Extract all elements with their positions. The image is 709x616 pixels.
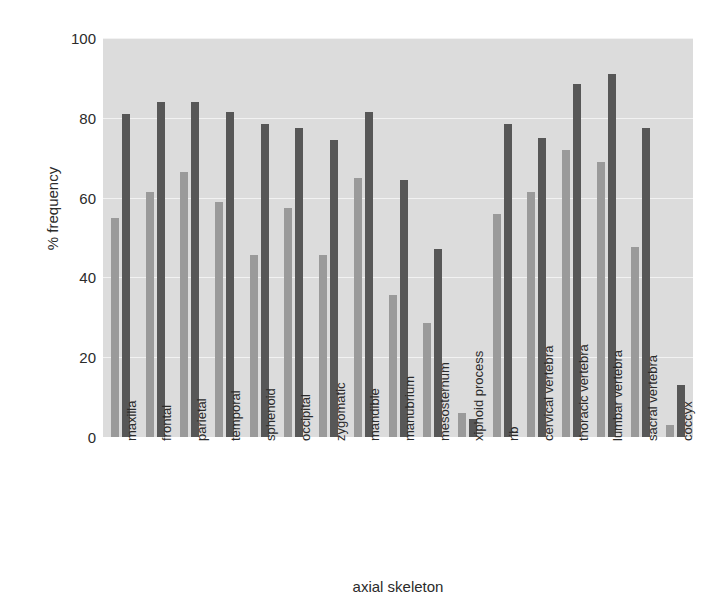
bar [191, 102, 199, 437]
bar [493, 214, 501, 437]
bar-group [111, 38, 130, 437]
bar-group [493, 38, 512, 437]
x-axis-tick-label: zygomatic [334, 382, 347, 441]
x-axis-tick-label: frontal [160, 405, 173, 441]
y-axis-tick-label: 80 [48, 111, 96, 126]
x-axis-tick-label: sphenoid [264, 388, 277, 441]
bar [157, 102, 165, 437]
x-axis-tick-label: parietal [195, 398, 208, 441]
x-axis-tick-label: mandible [368, 388, 381, 441]
bar-group [146, 38, 165, 437]
bar [631, 247, 639, 437]
x-axis-tick-label: maxilla [125, 401, 138, 441]
bar [527, 192, 535, 437]
x-axis-title: axial skeleton [103, 578, 693, 595]
x-axis-tick-labels: maxillafrontalparietaltemporalsphenoidoc… [103, 441, 693, 566]
bar-group [666, 38, 685, 437]
bar [319, 255, 327, 437]
x-axis-tick-label: cervical vertebra [542, 346, 555, 441]
bar [226, 112, 234, 437]
bar [180, 172, 188, 437]
bar [597, 162, 605, 437]
bar-chart-figure: % frequency 020406080100 maxillafrontalp… [0, 0, 709, 616]
plot-area [103, 38, 693, 437]
x-axis-tick-label: sacral vertebra [646, 355, 659, 441]
bar [295, 128, 303, 437]
bar-group [284, 38, 303, 437]
x-axis-tick-label: mesosternum [438, 362, 451, 441]
bar [250, 255, 258, 437]
bar [458, 413, 466, 437]
bar [423, 323, 431, 437]
bar [122, 114, 130, 437]
y-axis-tick-label: 20 [48, 350, 96, 365]
x-axis-tick-label: lumbar vertebra [611, 350, 624, 441]
y-axis-tick-label: 0 [48, 430, 96, 445]
y-axis-tick-label: 60 [48, 191, 96, 206]
bar [111, 218, 119, 437]
x-axis-tick-label: occipital [299, 394, 312, 441]
y-axis-tick-label: 40 [48, 270, 96, 285]
x-axis-tick-label: xiphoid process [472, 351, 485, 441]
x-axis-tick-label: coccyx [681, 401, 694, 441]
bar [215, 202, 223, 437]
bar-group [319, 38, 338, 437]
bar [354, 178, 362, 437]
y-axis-tick-label: 100 [48, 31, 96, 46]
bar-group [215, 38, 234, 437]
bar-group [354, 38, 373, 437]
bar [666, 425, 674, 437]
bar [562, 150, 570, 437]
x-axis-tick-label: thoracic vertebra [577, 344, 590, 441]
bar-group [180, 38, 199, 437]
x-axis-tick-label: temporal [229, 390, 242, 441]
x-axis-tick-label: rib [507, 427, 520, 441]
bar [504, 124, 512, 437]
bar-group [250, 38, 269, 437]
x-axis-tick-label: manubrium [403, 376, 416, 441]
bar [146, 192, 154, 437]
bar-series-container [103, 38, 693, 437]
y-axis-tick-labels: 020406080100 [48, 0, 96, 616]
bar [389, 295, 397, 437]
bar [284, 208, 292, 437]
